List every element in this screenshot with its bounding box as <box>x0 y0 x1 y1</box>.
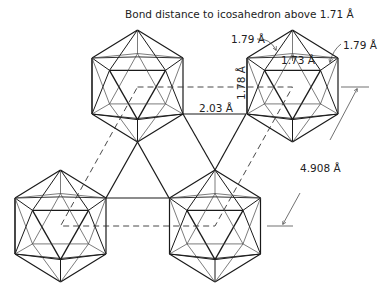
inter-icosahedral-bonds <box>106 114 246 198</box>
figure-title: Bond distance to icosahedron above 1.71 … <box>125 9 354 20</box>
boron-icosahedra-diagram <box>0 0 380 290</box>
label-lattice-4-908: 4.908 Å <box>300 163 341 174</box>
icosahedron-upper-right <box>247 30 338 142</box>
icosahedra-group <box>15 30 338 282</box>
label-bond-1-79-right: 1.79 Å <box>343 40 377 51</box>
label-bond-1-78: 1.78 Å <box>236 66 247 100</box>
label-bond-1-79-left: 1.79 Å <box>231 34 265 45</box>
label-bond-1-73: 1.73 Å <box>281 55 315 66</box>
label-bond-2-03: 2.03 Å <box>199 103 233 114</box>
icosahedron-upper-left <box>92 30 183 142</box>
icosahedron-lower-left <box>15 170 106 282</box>
